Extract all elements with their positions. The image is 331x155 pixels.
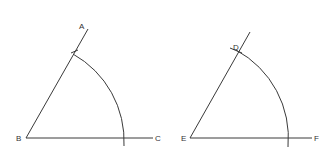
label-b: B (16, 134, 21, 143)
arc-right (236, 50, 288, 147)
angle-construction-diagram: A B C D E F (0, 0, 331, 155)
figure-left: A B C (16, 22, 161, 146)
label-d: D (233, 43, 239, 52)
label-c: C (155, 134, 161, 143)
figure-right: D E F (181, 32, 319, 147)
arc-left (73, 54, 124, 146)
label-a: A (79, 22, 85, 31)
ray-ed (190, 32, 250, 138)
label-e: E (181, 134, 186, 143)
ray-ba (26, 29, 88, 138)
label-f: F (314, 134, 319, 143)
